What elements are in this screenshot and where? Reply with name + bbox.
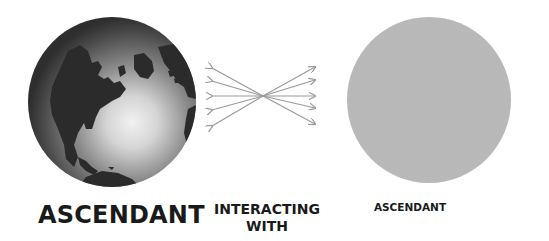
interaction-arrows (205, 58, 323, 136)
stippled-disc (347, 17, 511, 183)
globe-earth (28, 17, 196, 187)
globe-icon (28, 17, 196, 187)
connector-label-line2: WITH (212, 218, 322, 235)
crossing-arrows-icon (205, 58, 323, 136)
connector-label: INTERACTING WITH (212, 201, 322, 235)
connector-label-line1: INTERACTING (212, 201, 322, 218)
right-node-label: ASCENDANT (365, 202, 455, 213)
left-node-label: ASCENDANT (38, 203, 188, 227)
